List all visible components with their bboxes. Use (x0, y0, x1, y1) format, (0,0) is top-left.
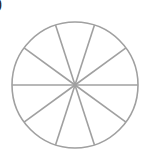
pie-chart (0, 0, 150, 163)
